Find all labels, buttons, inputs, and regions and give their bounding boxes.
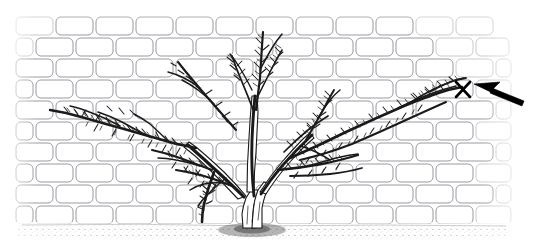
brick-row (16, 206, 511, 224)
wall-fade-left (0, 0, 36, 232)
brick-row (16, 122, 511, 140)
wall-fade-top (0, 0, 537, 22)
brick-row (16, 101, 511, 119)
pruning-illustration: X Pruning diagram: wall-trained shrub wi… (0, 0, 537, 252)
illustration-canvas: X (0, 0, 537, 252)
brick-row (16, 143, 511, 161)
wall-fade-right (480, 0, 537, 232)
brick-row (16, 164, 511, 182)
brick-row (16, 80, 511, 98)
ground-soil (0, 222, 537, 244)
